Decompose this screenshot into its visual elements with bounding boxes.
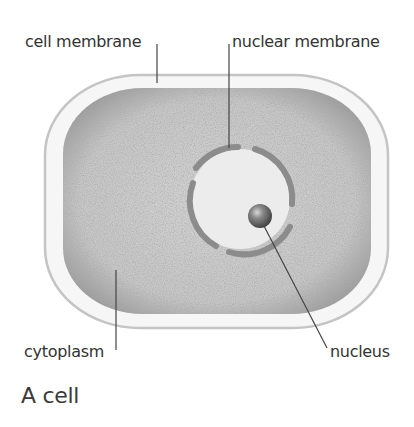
label-cytoplasm: cytoplasm bbox=[24, 344, 104, 360]
cell-diagram bbox=[0, 0, 414, 427]
label-nuclear-membrane: nuclear membrane bbox=[232, 34, 380, 50]
figure-caption: A cell bbox=[21, 385, 79, 407]
nucleus bbox=[248, 204, 272, 228]
label-nucleus: nucleus bbox=[330, 344, 390, 360]
label-cell-membrane: cell membrane bbox=[25, 34, 141, 50]
